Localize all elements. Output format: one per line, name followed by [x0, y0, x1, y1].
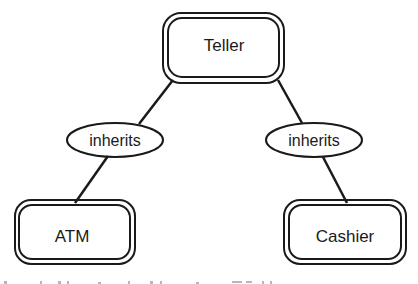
node-atm-label: ATM — [55, 227, 90, 246]
relation-right-inherits[interactable]: inherits — [266, 123, 362, 157]
node-cashier[interactable]: Cashier — [284, 200, 406, 264]
edge-right-inherits-to-cashier — [323, 157, 347, 203]
edge-left-inherits-to-atm — [75, 156, 108, 203]
node-teller[interactable]: Teller — [163, 13, 284, 83]
edge-teller-to-left-inherits — [139, 80, 173, 124]
edge-teller-to-right-inherits — [278, 80, 302, 123]
relation-right-label: inherits — [288, 132, 340, 149]
relation-left-label: inherits — [89, 132, 141, 149]
node-atm[interactable]: ATM — [15, 200, 135, 264]
relation-left-inherits[interactable]: inherits — [67, 123, 163, 157]
inheritance-diagram: Teller inherits inherits ATM Cashier — [0, 0, 418, 284]
node-teller-label: Teller — [204, 36, 245, 55]
node-cashier-label: Cashier — [316, 227, 375, 246]
